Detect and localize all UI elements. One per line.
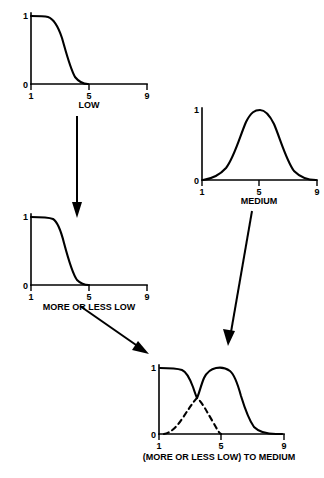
- combined-xtick-label-9: 9: [281, 441, 286, 451]
- combined-xtick-label-1: 1: [156, 441, 161, 451]
- plot-label-low: LOW: [79, 100, 100, 110]
- low-xtick-label-1: 1: [28, 91, 33, 101]
- low-ylabel-bottom: 0: [23, 80, 28, 90]
- plot-more-or-less-low: 1 0 1 5 9 MORE OR LESS LOW: [23, 212, 150, 312]
- plot-label-combined: (MORE OR LESS LOW) TO MEDIUM: [143, 452, 295, 462]
- combined-ylabel-bottom: 0: [151, 430, 156, 440]
- arrow-mll-shaft: [80, 306, 139, 347]
- plot-label-medium: MEDIUM: [241, 196, 278, 206]
- combined-ylabel-top: 1: [151, 363, 156, 373]
- plot-label-more-or-less-low: MORE OR LESS LOW: [43, 302, 136, 312]
- fuzzy-logic-figure: 1 0 1 5 9 LOW 1 0 1 5 9 MEDIUM 1 0 1 5 9…: [0, 0, 324, 478]
- mll-curve: [31, 217, 89, 285]
- arrow-low-to-more-or-less-low: [72, 116, 82, 218]
- arrow-medium-shaft: [231, 211, 252, 332]
- plot-low: 1 0 1 5 9 LOW: [23, 11, 150, 110]
- low-xtick-label-9: 9: [144, 91, 149, 101]
- medium-ylabel-bottom: 0: [194, 176, 199, 186]
- mll-xtick-label-9: 9: [144, 292, 149, 302]
- arrow-medium-to-combined: [223, 211, 252, 346]
- mll-ylabel-top: 1: [23, 212, 28, 222]
- medium-xtick-label-9: 9: [314, 187, 319, 197]
- medium-xtick-label-1: 1: [199, 187, 204, 197]
- arrow-medium-head: [223, 329, 235, 346]
- medium-curve: [203, 110, 316, 180]
- mll-ylabel-bottom: 0: [23, 281, 28, 291]
- arrow-low-head: [72, 202, 82, 218]
- combined-xtick-label-5: 5: [218, 441, 223, 451]
- arrow-more-or-less-low-to-combined: [80, 306, 149, 354]
- plot-combined: 1 0 1 5 9 (MORE OR LESS LOW) TO MEDIUM: [143, 363, 295, 462]
- combined-dashed-curve: [164, 398, 221, 434]
- mll-xtick-label-1: 1: [28, 292, 33, 302]
- low-ylabel-top: 1: [23, 11, 28, 21]
- low-curve: [31, 16, 88, 84]
- plot-medium: 1 0 1 5 9 MEDIUM: [194, 105, 320, 206]
- medium-ylabel-top: 1: [194, 105, 199, 115]
- mll-xtick-label-5: 5: [86, 292, 91, 302]
